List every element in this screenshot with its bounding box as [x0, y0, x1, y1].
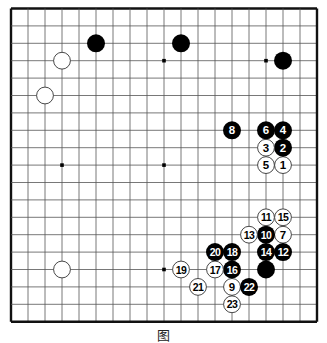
white-stone-move-21: 21 [190, 279, 207, 296]
move-number: 7 [280, 229, 286, 241]
black-stone-move-8: 8 [223, 121, 241, 139]
black-stone-move-6: 6 [257, 121, 275, 139]
white-stone [54, 52, 71, 69]
move-number: 8 [229, 124, 236, 136]
black-stone-move-18: 18 [223, 243, 241, 261]
move-number: 3 [263, 142, 269, 154]
black-stone-move-10: 10 [257, 226, 275, 244]
black-stone-move-4: 4 [274, 121, 292, 139]
black-stone [172, 34, 190, 52]
black-stone-icon [257, 261, 275, 279]
black-stone-icon [87, 34, 105, 52]
white-stone-move-3: 3 [258, 139, 275, 156]
move-number: 9 [229, 281, 235, 293]
star-point [162, 59, 166, 63]
move-number: 15 [278, 211, 289, 223]
white-stone-icon [54, 261, 71, 278]
move-number: 5 [263, 159, 270, 171]
move-number: 21 [193, 281, 204, 293]
move-number: 12 [278, 246, 289, 258]
black-stone-move-12: 12 [274, 243, 292, 261]
move-number: 10 [261, 229, 272, 241]
move-number: 17 [210, 264, 221, 276]
move-number: 11 [261, 211, 272, 223]
black-stone-move-2: 2 [274, 139, 292, 157]
move-number: 20 [210, 246, 221, 258]
move-number: 16 [227, 264, 238, 276]
white-stone-move-15: 15 [275, 209, 292, 226]
black-stone [257, 261, 275, 279]
white-stone-move-19: 19 [173, 261, 190, 278]
move-number: 1 [280, 159, 287, 171]
white-stone-move-1: 1 [275, 157, 292, 174]
move-number: 18 [227, 246, 238, 258]
star-point [162, 268, 166, 272]
black-stone-move-14: 14 [257, 243, 275, 261]
move-number: 14 [261, 246, 272, 258]
white-stone-move-13: 13 [241, 226, 258, 243]
diagram-caption: 图 [0, 329, 327, 343]
white-stone-move-9: 9 [224, 279, 241, 296]
white-stone-icon [37, 87, 54, 104]
move-number: 6 [263, 124, 269, 136]
white-stone-move-23: 23 [224, 296, 241, 313]
black-stone-move-20: 20 [206, 243, 224, 261]
white-stone-icon [54, 52, 71, 69]
star-point [60, 163, 64, 167]
move-number: 22 [244, 281, 255, 293]
black-stone-icon [172, 34, 190, 52]
star-point [264, 59, 268, 63]
black-stone-move-22: 22 [240, 278, 258, 296]
move-number: 13 [244, 229, 255, 241]
move-number: 19 [176, 264, 187, 276]
black-stone-move-16: 16 [223, 261, 241, 279]
white-stone-move-11: 11 [258, 209, 275, 226]
star-point [162, 163, 166, 167]
move-number: 2 [280, 142, 286, 154]
move-number: 23 [227, 298, 238, 310]
white-stone [37, 87, 54, 104]
white-stone-move-17: 17 [207, 261, 224, 278]
white-stone-move-7: 7 [275, 226, 292, 243]
move-number: 4 [280, 124, 287, 136]
black-stone-icon [274, 52, 292, 70]
black-stone [274, 52, 292, 70]
white-stone [54, 261, 71, 278]
black-stone [87, 34, 105, 52]
white-stone-move-5: 5 [258, 157, 275, 174]
